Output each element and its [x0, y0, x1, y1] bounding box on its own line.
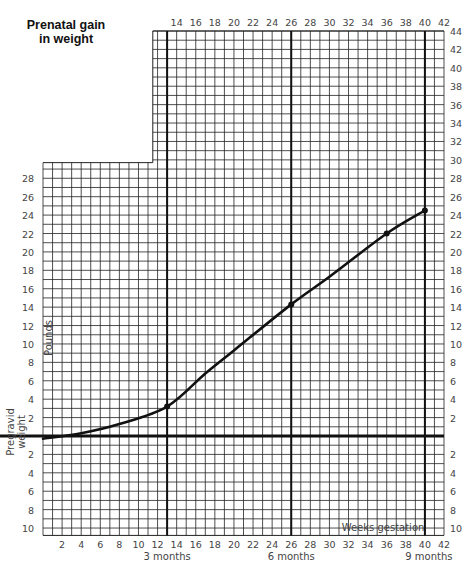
left-y-neg-tick-label: 10	[22, 523, 34, 534]
right-y-tick-label: 12	[450, 321, 462, 332]
left-y-neg-tick-label: 4	[28, 468, 34, 479]
left-y-tick-label: 24	[22, 210, 34, 221]
x-tick-label: 36	[381, 539, 393, 550]
x-tick-label: 6	[97, 539, 103, 550]
top-x-tick-label: 34	[362, 17, 374, 28]
x-axis-label: Weeks gestation	[342, 522, 425, 533]
axis-labels: 2468101214161820222426283032343638404214…	[5, 17, 462, 562]
x-tick-label: 2	[59, 539, 65, 550]
y-axis-label: Pounds	[43, 320, 54, 356]
left-y-tick-label: 28	[22, 173, 34, 184]
top-x-tick-label: 22	[247, 17, 259, 28]
right-y-tick-label: 18	[450, 265, 462, 276]
data-point-marker	[288, 301, 294, 307]
month-label: 9 months	[405, 551, 452, 562]
right-y-tick-label: 4	[450, 394, 456, 405]
right-y-tick-label: 6	[450, 376, 456, 387]
left-y-tick-label: 8	[28, 357, 34, 368]
left-y-tick-label: 6	[28, 376, 34, 387]
baseline-label: weight	[16, 415, 27, 449]
right-y-tick-label: 44	[450, 26, 462, 37]
right-y-tick-label: 2	[450, 413, 456, 424]
right-y-tick-label: 8	[450, 357, 456, 368]
baseline-label: Pregravid	[5, 408, 16, 456]
x-tick-label: 22	[247, 539, 259, 550]
left-y-tick-label: 16	[22, 284, 34, 295]
left-y-tick-label: 4	[28, 394, 34, 405]
top-x-tick-label: 24	[266, 17, 278, 28]
right-y-neg-tick-label: 6	[450, 486, 456, 497]
left-y-tick-label: 12	[22, 321, 34, 332]
x-tick-label: 32	[342, 539, 354, 550]
x-tick-label: 20	[228, 539, 240, 550]
right-y-tick-label: 36	[450, 100, 462, 111]
top-x-tick-label: 26	[285, 17, 297, 28]
x-tick-label: 40	[419, 539, 431, 550]
right-y-tick-label: 42	[450, 44, 462, 55]
top-x-tick-label: 42	[438, 17, 450, 28]
left-y-tick-label: 20	[22, 247, 34, 258]
right-y-tick-label: 28	[450, 173, 462, 184]
x-tick-label: 12	[152, 539, 164, 550]
grid	[43, 31, 444, 535]
x-tick-label: 34	[362, 539, 374, 550]
top-x-tick-label: 14	[171, 17, 183, 28]
data-point-marker	[164, 404, 170, 410]
x-tick-label: 24	[266, 539, 278, 550]
right-y-tick-label: 26	[450, 192, 462, 203]
top-x-tick-label: 28	[304, 17, 316, 28]
top-x-tick-label: 20	[228, 17, 240, 28]
month-label: 6 months	[268, 551, 315, 562]
x-tick-label: 42	[438, 539, 450, 550]
right-y-tick-label: 10	[450, 339, 462, 350]
right-y-tick-label: 34	[450, 118, 462, 129]
right-y-tick-label: 20	[450, 247, 462, 258]
top-x-tick-label: 18	[209, 17, 221, 28]
x-tick-label: 30	[323, 539, 335, 550]
weight-gain-chart: 2468101214161820222426283032343638404214…	[0, 0, 473, 575]
data-point-marker	[422, 207, 428, 213]
right-y-tick-label: 24	[450, 210, 462, 221]
month-label: 3 months	[144, 551, 191, 562]
right-y-tick-label: 14	[450, 302, 462, 313]
x-tick-label: 14	[171, 539, 183, 550]
top-x-tick-label: 36	[381, 17, 393, 28]
x-tick-label: 4	[78, 539, 84, 550]
left-y-tick-label: 26	[22, 192, 34, 203]
top-x-tick-label: 32	[342, 17, 354, 28]
x-tick-label: 10	[132, 539, 144, 550]
top-x-tick-label: 16	[190, 17, 202, 28]
right-y-tick-label: 16	[450, 284, 462, 295]
weight-gain-curve	[43, 207, 428, 438]
right-y-neg-tick-label: 8	[450, 505, 456, 516]
top-x-tick-label: 30	[323, 17, 335, 28]
right-y-tick-label: 38	[450, 81, 462, 92]
left-y-tick-label: 10	[22, 339, 34, 350]
right-y-tick-label: 32	[450, 136, 462, 147]
left-y-neg-tick-label: 8	[28, 505, 34, 516]
right-y-neg-tick-label: 10	[450, 523, 462, 534]
x-tick-label: 28	[304, 539, 316, 550]
right-y-tick-label: 40	[450, 63, 462, 74]
x-tick-label: 18	[209, 539, 221, 550]
x-tick-label: 38	[400, 539, 412, 550]
left-y-neg-tick-label: 2	[28, 449, 34, 460]
left-y-tick-label: 14	[22, 302, 34, 313]
right-y-tick-label: 30	[450, 155, 462, 166]
right-y-neg-tick-label: 2	[450, 449, 456, 460]
left-y-neg-tick-label: 6	[28, 486, 34, 497]
top-x-tick-label: 38	[400, 17, 412, 28]
left-y-tick-label: 2	[28, 413, 34, 424]
left-y-tick-label: 22	[22, 229, 34, 240]
x-tick-label: 26	[285, 539, 297, 550]
data-point-marker	[384, 231, 390, 237]
x-tick-label: 8	[116, 539, 122, 550]
left-y-tick-label: 18	[22, 265, 34, 276]
x-tick-label: 16	[190, 539, 202, 550]
top-x-tick-label: 40	[419, 17, 431, 28]
right-y-neg-tick-label: 4	[450, 468, 456, 479]
right-y-tick-label: 22	[450, 229, 462, 240]
